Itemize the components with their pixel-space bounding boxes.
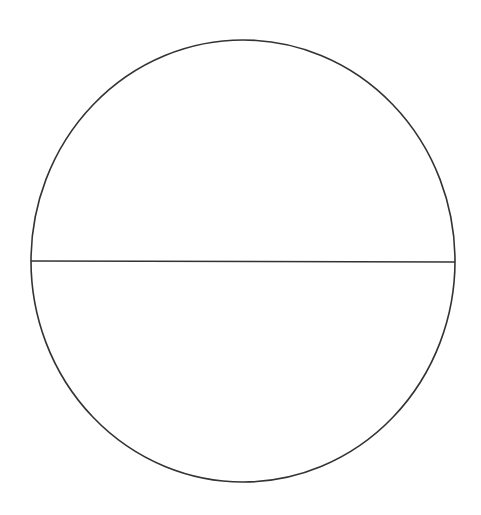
horizontal-diameter-line [31,261,455,262]
diagram-canvas [0,0,481,515]
